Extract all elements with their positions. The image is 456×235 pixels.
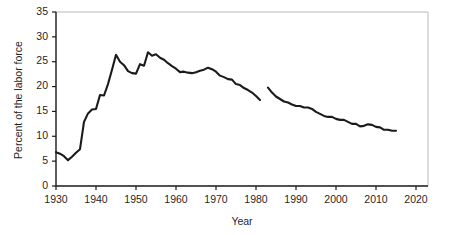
y-tick-label: 35 xyxy=(36,5,48,17)
x-tick-label: 1990 xyxy=(284,193,308,205)
x-tick-label: 1980 xyxy=(244,193,268,205)
chart-figure: 0510152025303519301940195019601970198019… xyxy=(0,0,456,235)
x-tick-label: 1960 xyxy=(164,193,188,205)
x-tick-label: 2020 xyxy=(404,193,428,205)
y-tick-label: 15 xyxy=(36,104,48,116)
x-tick-label: 1930 xyxy=(44,193,68,205)
y-tick-label: 10 xyxy=(36,129,48,141)
data-series-line xyxy=(56,52,260,160)
plot-axis-left-bottom xyxy=(56,12,428,186)
y-tick-label: 30 xyxy=(36,30,48,42)
x-tick-label: 2000 xyxy=(324,193,348,205)
x-tick-label: 1970 xyxy=(204,193,228,205)
data-series-group xyxy=(56,52,396,160)
y-tick-label: 25 xyxy=(36,54,48,66)
x-tick-label: 1940 xyxy=(84,193,108,205)
y-tick-label: 0 xyxy=(42,179,48,191)
y-tick-label: 20 xyxy=(36,79,48,91)
x-axis-title: Year xyxy=(231,215,253,227)
y-tick-label: 5 xyxy=(42,154,48,166)
plot-frame-top-right xyxy=(56,12,428,186)
data-series-line xyxy=(268,88,396,131)
line-chart: 0510152025303519301940195019601970198019… xyxy=(0,0,456,235)
x-tick-label: 2010 xyxy=(364,193,388,205)
x-tick-label: 1950 xyxy=(124,193,148,205)
axis-ticks xyxy=(52,12,416,190)
axis-tick-labels: 0510152025303519301940195019601970198019… xyxy=(36,5,428,205)
plot-frame xyxy=(56,12,428,186)
y-axis-title: Percent of the labor force xyxy=(12,41,24,159)
